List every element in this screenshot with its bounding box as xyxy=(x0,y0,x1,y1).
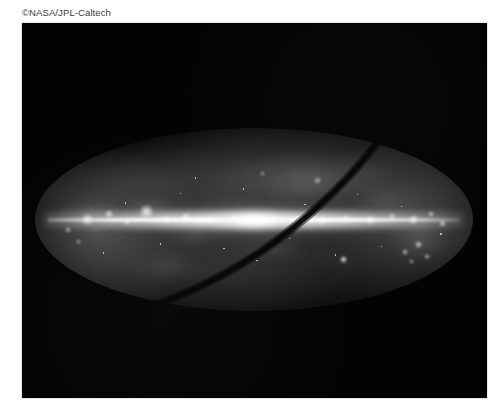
figure-frame xyxy=(22,23,487,398)
point-source xyxy=(160,243,161,244)
point-source xyxy=(335,254,336,255)
point-source xyxy=(223,248,224,249)
point-source xyxy=(125,202,126,203)
screenshot-root: ©NASA/JPL-Caltech xyxy=(0,0,500,416)
point-source xyxy=(180,193,181,194)
isolated-bright-source xyxy=(340,256,347,263)
point-source xyxy=(440,233,441,234)
point-source xyxy=(401,206,402,207)
point-source xyxy=(289,238,290,239)
image-credit: ©NASA/JPL-Caltech xyxy=(22,7,111,18)
point-source xyxy=(195,177,196,178)
point-source xyxy=(243,188,244,189)
all-sky-map xyxy=(35,128,473,311)
point-source xyxy=(304,204,305,205)
point-source xyxy=(103,252,104,253)
point-source xyxy=(381,246,382,247)
point-source xyxy=(256,260,257,261)
point-source xyxy=(357,194,358,195)
point-source-layer xyxy=(35,128,473,311)
